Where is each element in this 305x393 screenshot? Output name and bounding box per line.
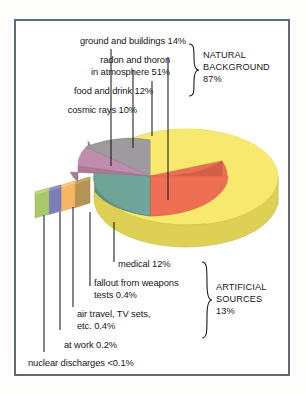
brace-natural-background: [189, 44, 199, 96]
group-label-artificial-sources-value: 13%: [216, 306, 235, 317]
group-label-artificial-sources-line2: SOURCES: [216, 294, 262, 305]
label-fallout-line1: fallout from weapons: [94, 277, 179, 289]
label-radon-and-thoron-line2: in atmosphere 51%: [0, 66, 170, 78]
group-label-natural-background-value: 87%: [203, 74, 222, 85]
group-label-natural-background-line1: NATURAL: [203, 50, 246, 61]
label-at-work: at work 0.2%: [64, 339, 117, 351]
label-cosmic-rays: cosmic rays 10%: [0, 104, 137, 116]
label-radon-and-thoron-line1: radon and thoron: [0, 54, 170, 66]
slice-air-travel-tv-sets: [74, 177, 90, 208]
group-label-natural-background-line2: BACKGROUND: [203, 62, 270, 73]
label-air-travel-line2: etc. 0.4%: [77, 320, 115, 332]
group-label-artificial-sources-line1: ARTIFICIAL: [216, 282, 266, 293]
brace-artificial-sources: [202, 262, 212, 338]
label-air-travel-line1: air travel, TV sets,: [77, 308, 150, 320]
label-ground-and-buildings: ground and buildings 14%: [0, 35, 186, 47]
label-medical: medical 12%: [118, 258, 171, 270]
label-nuclear-discharges: nuclear discharges <0.1%: [28, 357, 134, 369]
label-food-and-drink: food and drink 12%: [0, 85, 153, 97]
label-fallout-line2: tests 0.4%: [94, 289, 137, 301]
slice-nuclear-discharges: [35, 188, 49, 218]
radiation-sources-pie-figure: ground and buildings 14% radon and thoro…: [0, 0, 305, 393]
